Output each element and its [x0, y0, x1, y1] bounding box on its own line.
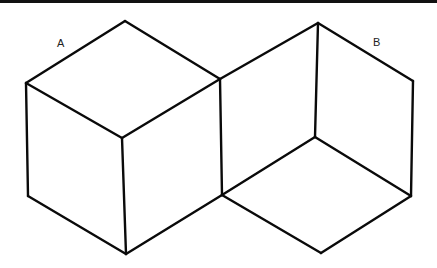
cube-b-edge-floor-front-right [321, 196, 411, 253]
cube-b-edge-top-right [318, 23, 413, 81]
cube-b-edge-floor-front-left [222, 195, 321, 253]
cube-a-edge-bottom-left [28, 196, 126, 254]
isometric-cubes-figure [0, 0, 437, 268]
cube-b-edge-top-left [220, 23, 318, 79]
cube-b-edge-floor-back-left [222, 137, 315, 195]
shared-edge-vertical [220, 79, 222, 195]
cube-a [26, 21, 222, 254]
cube-b-edge-right-vertical [411, 81, 413, 196]
cube-a-edge-front-right-top [122, 79, 220, 138]
cube-b-edge-floor-back-right [315, 137, 411, 196]
cube-a-edge-center-vertical [122, 138, 126, 254]
cube-a-edge-top-left [26, 21, 125, 83]
cube-a-label: A [57, 38, 64, 49]
cube-b [220, 23, 413, 253]
cube-a-edge-top-right [125, 21, 220, 79]
cube-b-label: B [373, 37, 380, 48]
cube-a-edge-left-vertical [26, 83, 28, 196]
cube-a-edge-front-left-top [26, 83, 122, 138]
cube-b-edge-back-vertical [315, 23, 318, 137]
cube-a-edge-bottom-right [126, 195, 222, 254]
